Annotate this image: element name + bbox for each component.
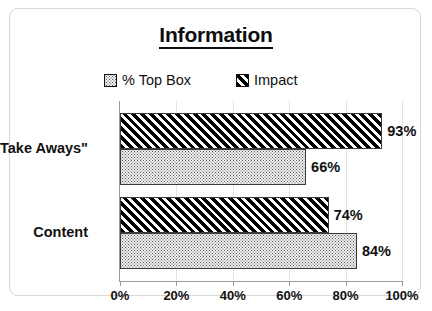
category-label: "Take Aways" xyxy=(0,140,88,156)
chart-title-text: Information xyxy=(159,23,272,49)
bar-impact[interactable] xyxy=(120,197,329,233)
legend-label-impact: Impact xyxy=(254,72,298,88)
bar-row-top-box: 84% xyxy=(120,233,402,269)
plot-area: 93%66%74%84% "Take Aways"Content xyxy=(120,101,402,281)
x-axis-ticks: 0%20%40%60%80%100% xyxy=(120,281,402,307)
hatch-swatch-icon xyxy=(236,74,249,87)
chart-container: Information % Top Box Impact 93%66%74%84… xyxy=(9,8,421,296)
category-label: Content xyxy=(0,224,88,240)
chart-title: Information xyxy=(10,23,422,47)
bar-value-label: 84% xyxy=(357,243,391,259)
bar-row-impact: 74% xyxy=(120,197,402,233)
x-tick-label: 60% xyxy=(276,288,302,303)
x-tick-mark xyxy=(233,281,234,286)
x-tick-mark xyxy=(120,281,121,286)
bar-value-label: 93% xyxy=(382,123,416,139)
x-tick-mark xyxy=(176,281,177,286)
bar-top-box[interactable] xyxy=(120,149,306,185)
stipple-swatch-icon xyxy=(104,74,117,87)
bar-impact[interactable] xyxy=(120,113,382,149)
chart-legend: % Top Box Impact xyxy=(96,69,346,91)
bar-value-label: 66% xyxy=(306,159,340,175)
bar-top-box[interactable] xyxy=(120,233,357,269)
legend-label-top-box: % Top Box xyxy=(122,72,191,88)
x-tick-mark xyxy=(402,281,403,286)
bar-row-impact: 93% xyxy=(120,113,402,149)
x-tick-label: 40% xyxy=(220,288,246,303)
legend-item-top-box[interactable]: % Top Box xyxy=(104,69,191,91)
x-tick-label: 100% xyxy=(385,288,418,303)
legend-item-impact[interactable]: Impact xyxy=(236,69,298,91)
x-tick-label: 20% xyxy=(163,288,189,303)
x-tick-label: 0% xyxy=(111,288,130,303)
bar-row-top-box: 66% xyxy=(120,149,402,185)
x-tick-mark xyxy=(289,281,290,286)
x-tick-mark xyxy=(346,281,347,286)
bar-value-label: 74% xyxy=(329,207,363,223)
x-tick-label: 80% xyxy=(333,288,359,303)
